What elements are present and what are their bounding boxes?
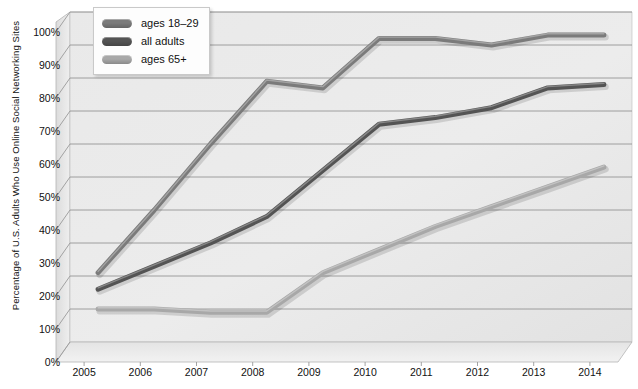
- y-tick-label: 30%: [20, 257, 60, 269]
- legend: ages 18–29 all adults ages 65+: [93, 7, 210, 75]
- legend-label-ages-65-plus: ages 65+: [141, 53, 187, 65]
- legend-label-all-adults: all adults: [141, 35, 184, 47]
- x-tick-label: 2006: [110, 366, 170, 378]
- legend-swatch-ages-65-plus: [102, 55, 132, 64]
- y-tick-label: 10%: [20, 323, 60, 335]
- y-tick-label: 80%: [20, 92, 60, 104]
- legend-label-ages-18-29: ages 18–29: [141, 17, 199, 29]
- y-tick-label: 50%: [20, 191, 60, 203]
- y-tick-label: 100%: [20, 26, 60, 38]
- y-tick-label: 70%: [20, 125, 60, 137]
- x-tick-label: 2005: [54, 366, 114, 378]
- x-tick-label: 2009: [279, 366, 339, 378]
- y-tick-label: 20%: [20, 290, 60, 302]
- y-tick-label: 40%: [20, 224, 60, 236]
- legend-swatch-all-adults: [102, 37, 132, 46]
- x-tick-label: 2007: [167, 366, 227, 378]
- plot-floor: [56, 342, 632, 362]
- x-tick-label: 2008: [223, 366, 283, 378]
- x-tick-label: 2013: [504, 366, 564, 378]
- y-tick-label: 60%: [20, 158, 60, 170]
- line-chart: Percentage of U.S. Adults Who Use Online…: [0, 0, 638, 389]
- legend-item: ages 18–29: [102, 14, 199, 32]
- x-tick-label: 2011: [391, 366, 451, 378]
- x-tick-label: 2010: [335, 366, 395, 378]
- legend-item: ages 65+: [102, 50, 199, 68]
- x-tick-label: 2012: [448, 366, 508, 378]
- legend-item: all adults: [102, 32, 199, 50]
- y-tick-label: 90%: [20, 59, 60, 71]
- x-tick-label: 2014: [560, 366, 620, 378]
- legend-swatch-ages-18-29: [102, 19, 132, 28]
- y-axis-tick-labels: 0%10%20%30%40%50%60%70%80%90%100%: [14, 0, 60, 389]
